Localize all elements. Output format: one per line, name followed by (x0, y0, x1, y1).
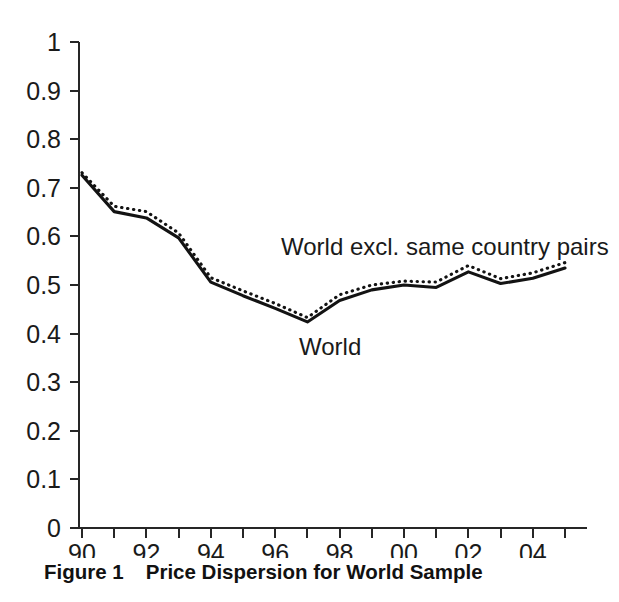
chart-plot-area: 00.10.20.30.40.50.60.70.80.91 9092949698… (0, 0, 619, 558)
x-tick-label: 90 (68, 539, 96, 558)
y-tick-label: 0.5 (26, 271, 61, 299)
caption-title: Price Dispersion for World Sample (146, 560, 483, 584)
annotation-world-excl-same-country-pairs: World excl. same country pairs (281, 233, 609, 260)
figure-container: 00.10.20.30.40.50.60.70.80.91 9092949698… (0, 0, 619, 602)
y-tick-label: 0.9 (26, 77, 61, 105)
y-tick-label: 1 (47, 28, 61, 56)
y-tick-label: 0.3 (26, 368, 61, 396)
y-tick-label: 0.2 (26, 417, 61, 445)
y-tick-label: 0.7 (26, 174, 61, 202)
x-axis-ticks: 9092949698000204 (68, 528, 565, 558)
x-tick-label: 92 (132, 539, 160, 558)
y-tick-label: 0.4 (26, 320, 61, 348)
x-tick-label: 04 (519, 539, 547, 558)
y-tick-label: 0.1 (26, 465, 61, 493)
figure-caption: Figure 1 Price Dispersion for World Samp… (0, 560, 619, 602)
y-axis-ticks: 00.10.20.30.40.50.60.70.80.91 (26, 28, 79, 542)
x-tick-label: 00 (390, 539, 418, 558)
y-tick-label: 0.8 (26, 125, 61, 153)
x-tick-label: 98 (326, 539, 354, 558)
line-chart: 00.10.20.30.40.50.60.70.80.91 9092949698… (0, 0, 619, 558)
y-tick-label: 0.6 (26, 222, 61, 250)
caption-number: Figure 1 (44, 560, 124, 584)
x-tick-label: 96 (261, 539, 289, 558)
annotation-world: World (299, 333, 361, 360)
x-tick-label: 94 (197, 539, 225, 558)
y-tick-label: 0 (47, 514, 61, 542)
x-tick-label: 02 (454, 539, 482, 558)
